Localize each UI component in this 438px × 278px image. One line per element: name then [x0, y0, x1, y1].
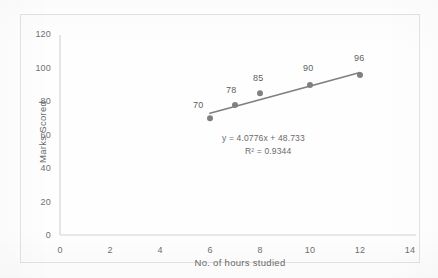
data-point-marker	[232, 102, 238, 108]
trendline-r-squared: R² = 0.9344	[245, 146, 291, 156]
data-point-marker	[257, 90, 263, 96]
data-label-70: 70	[193, 100, 203, 110]
data-label-90: 90	[303, 63, 313, 73]
trendline-equation: y = 4.0776x + 48.733	[222, 133, 305, 143]
data-point-marker	[357, 72, 363, 78]
chart-frame: 120 100 80 60 40 20 0 0 2 4 6 8 10 12 14…	[20, 14, 420, 263]
data-label-85: 85	[253, 73, 263, 83]
data-point-marker	[207, 115, 213, 121]
data-label-78: 78	[226, 85, 236, 95]
data-label-96: 96	[354, 53, 364, 63]
data-point-marker	[307, 82, 313, 88]
